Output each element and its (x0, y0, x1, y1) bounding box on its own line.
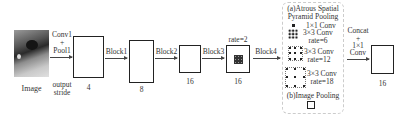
image-pooling-icon (307, 101, 315, 109)
output-stride-label-2: stride (50, 89, 74, 97)
feature-map-stride-4 (73, 36, 104, 78)
fusion-label-conv: Conv (345, 49, 371, 57)
feature-map-stride-16-a (179, 45, 201, 73)
block3-label: Block3 (201, 48, 226, 56)
fusion-arrow (347, 59, 369, 60)
output-feature-map (371, 45, 394, 74)
aspp-title-line2: Pyramid Pooling (282, 13, 344, 21)
stride-label-16-a: 16 (179, 78, 201, 86)
block1-arrow (105, 58, 127, 59)
feature-map-stride-16-b (226, 45, 250, 73)
block2-arrow (155, 58, 177, 59)
rate-2-label: rate=2 (224, 36, 252, 44)
stride-label-4: 4 (73, 84, 104, 92)
block4-label: Block4 (252, 48, 280, 56)
block2-label: Block2 (154, 48, 179, 56)
aspp-branch-rate12-rate: rate=12 (306, 56, 332, 64)
input-label: Image (14, 85, 49, 93)
block3-arrow (202, 58, 224, 59)
kernel-3x3-rate18-icon (285, 67, 306, 88)
stride-label-8: 8 (129, 86, 154, 94)
block4-arrow (253, 58, 280, 59)
feature-map-stride-8 (129, 40, 154, 83)
atrous-kernel-icon (234, 55, 243, 64)
aspp-branch-rate6-rate: rate=6 (306, 37, 330, 45)
aspp-branch-rate18-rate: rate=18 (309, 78, 335, 86)
output-stride-label-16: 16 (371, 80, 394, 88)
stem-arrow (50, 57, 72, 58)
kernel-3x3-rate6-icon (288, 29, 298, 39)
stride-label-16-b: 16 (226, 78, 250, 86)
block1-label: Block1 (104, 48, 129, 56)
stem-label-pool1: Pool1 (50, 47, 74, 55)
input-image (14, 30, 49, 77)
image-pooling-title: (b)Image Pooling (282, 92, 344, 100)
kernel-3x3-rate12-icon (288, 46, 303, 61)
kernel-1x1-icon (292, 24, 295, 27)
